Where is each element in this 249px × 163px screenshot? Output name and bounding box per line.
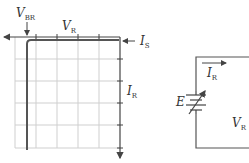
- v-br-label: VBR: [16, 6, 36, 22]
- circuit-i-r-label: IR: [206, 66, 218, 82]
- circuit: [196, 57, 249, 148]
- i-s-label: IS: [139, 34, 150, 50]
- variable-battery-icon: [186, 91, 206, 114]
- characteristic-curve: [27, 40, 119, 150]
- graph-grid: [15, 37, 120, 148]
- i-r-label: IR: [126, 84, 138, 100]
- diagram-canvas: VBR VR IS IR IR E VR: [0, 0, 249, 163]
- v-r-label: VR: [62, 19, 77, 35]
- circuit-v-r-label: VR: [232, 116, 247, 132]
- battery-e-label: E: [175, 95, 185, 109]
